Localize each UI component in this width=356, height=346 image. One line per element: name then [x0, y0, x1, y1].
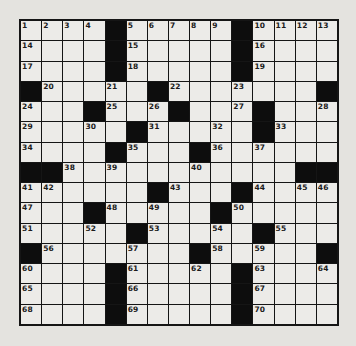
crossword-cell[interactable]: 42	[42, 183, 62, 202]
crossword-cell[interactable]	[84, 82, 104, 101]
crossword-cell[interactable]	[63, 305, 83, 324]
crossword-cell[interactable]	[275, 305, 295, 324]
crossword-cell[interactable]: 38	[63, 163, 83, 182]
crossword-cell[interactable]	[84, 163, 104, 182]
crossword-cell[interactable]	[232, 122, 252, 141]
crossword-cell[interactable]	[84, 62, 104, 81]
crossword-cell[interactable]	[148, 305, 168, 324]
crossword-cell[interactable]	[275, 264, 295, 283]
crossword-cell[interactable]: 7	[169, 21, 189, 40]
crossword-cell[interactable]	[42, 143, 62, 162]
crossword-cell[interactable]: 62	[190, 264, 210, 283]
crossword-cell[interactable]: 70	[253, 305, 273, 324]
crossword-cell[interactable]: 5	[127, 21, 147, 40]
crossword-cell[interactable]	[275, 143, 295, 162]
crossword-cell[interactable]: 25	[106, 102, 126, 121]
crossword-cell[interactable]: 40	[190, 163, 210, 182]
crossword-cell[interactable]	[253, 163, 273, 182]
crossword-cell[interactable]: 24	[21, 102, 41, 121]
crossword-cell[interactable]: 35	[127, 143, 147, 162]
crossword-cell[interactable]	[63, 284, 83, 303]
crossword-cell[interactable]	[275, 163, 295, 182]
crossword-cell[interactable]	[106, 224, 126, 243]
crossword-cell[interactable]	[169, 305, 189, 324]
crossword-cell[interactable]	[169, 264, 189, 283]
crossword-cell[interactable]: 59	[253, 244, 273, 263]
crossword-cell[interactable]	[275, 284, 295, 303]
crossword-cell[interactable]: 53	[148, 224, 168, 243]
crossword-cell[interactable]: 27	[232, 102, 252, 121]
crossword-cell[interactable]	[84, 264, 104, 283]
crossword-cell[interactable]: 67	[253, 284, 273, 303]
crossword-cell[interactable]	[275, 183, 295, 202]
crossword-cell[interactable]	[232, 244, 252, 263]
crossword-cell[interactable]: 50	[232, 203, 252, 222]
crossword-cell[interactable]: 30	[84, 122, 104, 141]
crossword-cell[interactable]	[232, 163, 252, 182]
crossword-cell[interactable]: 49	[148, 203, 168, 222]
crossword-cell[interactable]	[275, 102, 295, 121]
crossword-cell[interactable]	[148, 143, 168, 162]
crossword-cell[interactable]: 15	[127, 41, 147, 60]
crossword-cell[interactable]	[42, 203, 62, 222]
crossword-cell[interactable]	[169, 62, 189, 81]
crossword-cell[interactable]: 20	[42, 82, 62, 101]
crossword-cell[interactable]	[317, 62, 337, 81]
crossword-cell[interactable]: 8	[190, 21, 210, 40]
crossword-cell[interactable]	[63, 62, 83, 81]
crossword-cell[interactable]: 52	[84, 224, 104, 243]
crossword-cell[interactable]	[190, 284, 210, 303]
crossword-cell[interactable]	[211, 284, 231, 303]
crossword-cell[interactable]	[127, 102, 147, 121]
crossword-cell[interactable]	[296, 203, 316, 222]
crossword-cell[interactable]: 4	[84, 21, 104, 40]
crossword-cell[interactable]: 19	[253, 62, 273, 81]
crossword-cell[interactable]: 18	[127, 62, 147, 81]
crossword-cell[interactable]	[190, 122, 210, 141]
crossword-cell[interactable]	[148, 62, 168, 81]
crossword-cell[interactable]	[317, 284, 337, 303]
crossword-cell[interactable]: 14	[21, 41, 41, 60]
crossword-cell[interactable]: 28	[317, 102, 337, 121]
crossword-cell[interactable]: 9	[211, 21, 231, 40]
crossword-cell[interactable]: 61	[127, 264, 147, 283]
crossword-cell[interactable]: 66	[127, 284, 147, 303]
crossword-cell[interactable]: 44	[253, 183, 273, 202]
crossword-cell[interactable]: 51	[21, 224, 41, 243]
crossword-cell[interactable]	[127, 183, 147, 202]
crossword-cell[interactable]: 60	[21, 264, 41, 283]
crossword-cell[interactable]	[211, 305, 231, 324]
crossword-cell[interactable]	[275, 41, 295, 60]
crossword-cell[interactable]: 1	[21, 21, 41, 40]
crossword-cell[interactable]	[106, 244, 126, 263]
crossword-cell[interactable]	[296, 82, 316, 101]
crossword-cell[interactable]: 36	[211, 143, 231, 162]
crossword-cell[interactable]	[296, 102, 316, 121]
crossword-cell[interactable]	[63, 82, 83, 101]
crossword-cell[interactable]	[211, 102, 231, 121]
crossword-cell[interactable]	[106, 183, 126, 202]
crossword-cell[interactable]: 43	[169, 183, 189, 202]
crossword-cell[interactable]: 21	[106, 82, 126, 101]
crossword-cell[interactable]: 16	[253, 41, 273, 60]
crossword-cell[interactable]: 12	[296, 21, 316, 40]
crossword-cell[interactable]	[296, 143, 316, 162]
crossword-cell[interactable]	[232, 143, 252, 162]
crossword-cell[interactable]: 34	[21, 143, 41, 162]
crossword-cell[interactable]: 69	[127, 305, 147, 324]
crossword-cell[interactable]	[84, 143, 104, 162]
crossword-cell[interactable]: 54	[211, 224, 231, 243]
crossword-cell[interactable]	[190, 224, 210, 243]
crossword-cell[interactable]: 17	[21, 62, 41, 81]
crossword-cell[interactable]: 2	[42, 21, 62, 40]
crossword-cell[interactable]: 29	[21, 122, 41, 141]
crossword-cell[interactable]	[253, 203, 273, 222]
crossword-cell[interactable]	[275, 203, 295, 222]
crossword-cell[interactable]	[84, 305, 104, 324]
crossword-cell[interactable]	[190, 203, 210, 222]
crossword-cell[interactable]	[84, 41, 104, 60]
crossword-cell[interactable]: 46	[317, 183, 337, 202]
crossword-cell[interactable]: 23	[232, 82, 252, 101]
crossword-cell[interactable]	[169, 224, 189, 243]
crossword-cell[interactable]	[296, 264, 316, 283]
